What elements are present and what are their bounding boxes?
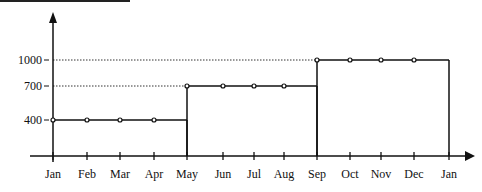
x-tick-label: Jun	[215, 167, 232, 181]
data-point	[152, 118, 156, 122]
data-point	[282, 84, 286, 88]
data-point	[379, 58, 383, 62]
data-points	[51, 58, 416, 122]
x-tick-label: May	[176, 167, 198, 181]
x-axis-labels: JanFebMarAprMayJunJulAugSepOctNovDecJan	[45, 167, 457, 181]
y-tick-label: 700	[24, 79, 42, 93]
x-tick-label: Jul	[247, 167, 262, 181]
x-tick-label: Aug	[274, 167, 295, 181]
x-tick-label: Sep	[308, 167, 326, 181]
x-tick-label: Nov	[371, 167, 392, 181]
x-tick-label: Jan	[441, 167, 457, 181]
data-point	[185, 84, 189, 88]
x-tick-label: Jan	[45, 167, 61, 181]
y-tick-label: 1000	[18, 53, 42, 67]
data-point	[315, 58, 319, 62]
data-point	[51, 118, 55, 122]
x-tick-label: Dec	[404, 167, 423, 181]
data-point	[85, 118, 89, 122]
step-chart: JanFebMarAprMayJunJulAugSepOctNovDecJan …	[0, 0, 482, 192]
data-point	[252, 84, 256, 88]
x-tick-label: Oct	[341, 167, 359, 181]
data-point	[118, 118, 122, 122]
data-point	[221, 84, 225, 88]
data-point	[348, 58, 352, 62]
x-tick-label: Feb	[78, 167, 96, 181]
x-tick-label: Apr	[145, 167, 164, 181]
y-axis-labels: 4007001000	[18, 53, 49, 127]
data-point	[412, 58, 416, 62]
y-tick-label: 400	[24, 113, 42, 127]
x-tick-label: Mar	[110, 167, 130, 181]
x-axis-arrow-icon	[465, 151, 475, 161]
y-axis-arrow-icon	[49, 12, 57, 23]
step-series	[53, 60, 449, 156]
reference-lines	[53, 60, 317, 86]
